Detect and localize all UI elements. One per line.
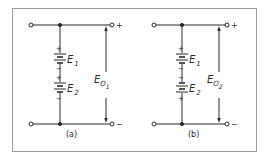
e1-label-a: E1 [67,54,79,68]
output-voltage-label-b: EO2 [207,74,223,90]
output-voltage-arrow-a [104,26,107,123]
terminal-minus-sign-a: − [116,120,123,129]
terminal-plus-sign-a: + [116,21,123,30]
circuit-diagram: + − + − + − E1 E2 EO1 (a) [0,0,267,162]
caption-b: (b) [188,130,199,139]
terminal-bottom-right-b [225,122,229,126]
e2-top-sign-a: + [56,74,62,82]
e1-bottom-sign-a: − [56,65,62,73]
terminal-minus-sign-b: − [231,120,238,129]
e2-label-a: E2 [67,83,79,97]
terminal-top-right-a [110,23,114,27]
terminal-top-left-a [29,23,33,27]
e1-top-sign-a: + [56,45,62,53]
panel-a [29,23,114,126]
battery-e1-a [54,54,66,63]
e2-label-b: E2 [189,83,201,97]
output-voltage-arrow-b [217,26,220,123]
terminal-bottom-left-a [29,122,33,126]
e1-bottom-sign-b: − [178,65,184,73]
e1-top-sign-b: + [178,45,184,53]
terminal-bottom-left-b [152,122,156,126]
e2-bottom-sign-b: + [178,95,184,103]
e2-bottom-sign-a: − [56,95,62,103]
e2-top-sign-b: − [178,74,184,82]
terminal-bottom-right-a [110,122,114,126]
battery-e2-a [54,83,66,92]
e1-label-b: E1 [189,54,201,68]
output-voltage-label-a: EO1 [94,74,110,90]
terminal-top-right-b [225,23,229,27]
battery-e2-b [176,83,188,92]
terminal-plus-sign-b: + [231,21,238,30]
battery-e1-b [176,54,188,63]
caption-a: (a) [66,130,77,139]
terminal-top-left-b [152,23,156,27]
panel-b [152,23,229,126]
